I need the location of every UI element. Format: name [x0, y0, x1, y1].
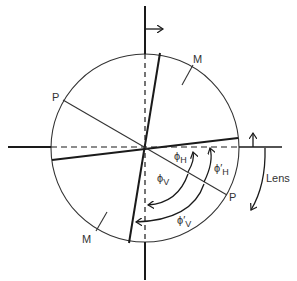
m-tick-top — [182, 65, 193, 85]
m-tick-bottom — [96, 212, 107, 231]
label-p-top: P — [52, 91, 59, 103]
label-m-top: M — [193, 53, 202, 65]
phi-v-prime-arc — [136, 184, 204, 222]
label-lens: Lens — [266, 172, 290, 184]
label-phi-v: ϕV — [157, 172, 169, 187]
label-phi-h: ϕH — [174, 150, 187, 165]
label-phi-h-prime: ϕ′H — [214, 162, 229, 177]
phi-h-prime-arc — [204, 148, 211, 182]
diagram-canvas: P P M M ϕH ϕ′H ϕV ϕ′V Lens — [0, 0, 297, 281]
label-p-bottom: P — [229, 191, 236, 203]
label-phi-v-prime: ϕ′V — [177, 214, 191, 229]
phi-h-arc — [188, 152, 193, 172]
lens-rotation-arrow — [251, 148, 265, 210]
label-m-bottom: M — [82, 233, 91, 245]
